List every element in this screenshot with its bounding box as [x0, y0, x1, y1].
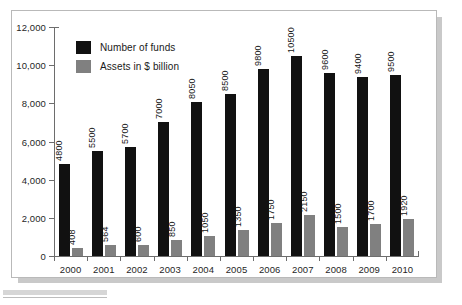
x-axis-label: 2007 — [292, 264, 314, 275]
bar-value-label: 9600 — [321, 49, 330, 70]
y-axis-label: 4,000 — [22, 174, 46, 185]
y-axis-label: 0 — [41, 251, 46, 262]
x-axis-tick — [54, 256, 55, 261]
bar-assets: 1500 — [337, 227, 348, 256]
x-axis-line — [54, 256, 419, 257]
scan-artifact-line — [3, 297, 107, 298]
bar-assets: 1050 — [204, 236, 215, 256]
x-axis-label: 2000 — [60, 264, 82, 275]
y-axis-tick — [49, 103, 54, 104]
bar-funds: 8500 — [225, 94, 236, 256]
x-axis-label: 2004 — [193, 264, 215, 275]
x-axis-tick — [353, 256, 354, 261]
bar-assets: 600 — [138, 245, 149, 256]
x-axis-tick — [286, 256, 287, 261]
y-axis-top-cap — [54, 27, 59, 28]
bar-value-label: 1920 — [400, 196, 409, 217]
x-axis-tick — [386, 256, 387, 261]
x-axis-label: 2002 — [126, 264, 148, 275]
bar-value-label: 8050 — [188, 79, 197, 100]
bar-value-label: 1050 — [201, 212, 210, 233]
bar-value-label: 9800 — [254, 45, 263, 66]
bar-assets: 1920 — [403, 219, 414, 256]
bar-value-label: 600 — [134, 226, 143, 242]
x-axis-label: 2005 — [226, 264, 248, 275]
bar-value-label: 1700 — [367, 200, 376, 221]
x-axis-tick — [319, 256, 320, 261]
y-axis-tick — [49, 65, 54, 66]
bar-funds: 9500 — [390, 75, 401, 256]
x-axis-label: 2008 — [325, 264, 347, 275]
x-axis-label: 2006 — [259, 264, 281, 275]
legend-label: Assets in $ billion — [100, 61, 179, 72]
bar-value-label: 7000 — [155, 99, 164, 120]
legend-swatch — [76, 60, 91, 73]
y-axis-label: 12,000 — [16, 22, 46, 33]
bar-assets: 850 — [171, 240, 182, 256]
bar-value-label: 4800 — [55, 141, 64, 162]
bar-assets: 1350 — [238, 230, 249, 256]
bar-value-label: 5700 — [121, 123, 130, 144]
bar-value-label: 564 — [101, 227, 110, 243]
bar-assets: 1750 — [271, 223, 282, 256]
bar-value-label: 5500 — [88, 127, 97, 148]
x-axis-label: 2001 — [93, 264, 115, 275]
scan-artifact-bar — [3, 290, 107, 295]
bar-funds: 9400 — [357, 77, 368, 256]
bar-assets: 1700 — [370, 224, 381, 256]
bar-value-label: 1750 — [267, 199, 276, 220]
bar-value-label: 10500 — [287, 27, 296, 53]
x-axis-tick — [187, 256, 188, 261]
legend-item: Number of funds — [76, 38, 179, 57]
y-axis-tick — [49, 218, 54, 219]
legend-label: Number of funds — [100, 42, 175, 53]
bar-value-label: 9400 — [354, 53, 363, 74]
bar-value-label: 408 — [68, 230, 77, 246]
legend-swatch — [76, 41, 91, 54]
bar-funds: 9800 — [258, 69, 269, 256]
bar-assets: 2150 — [304, 215, 315, 256]
x-axis-tick — [87, 256, 88, 261]
frame-shadow-bottom — [18, 278, 442, 283]
bar-assets: 564 — [105, 245, 116, 256]
bar-value-label: 8500 — [221, 70, 230, 91]
bar-value-label: 9500 — [387, 51, 396, 72]
y-axis-label: 6,000 — [22, 136, 46, 147]
bar-funds: 10500 — [291, 56, 302, 256]
x-axis-tick — [253, 256, 254, 261]
frame-shadow-right — [437, 17, 442, 283]
x-axis-tick — [220, 256, 221, 261]
y-axis-tick — [49, 180, 54, 181]
bar-value-label: 1350 — [234, 206, 243, 227]
x-axis-tick — [120, 256, 121, 261]
bar-value-label: 1500 — [334, 204, 343, 225]
x-axis-label: 2009 — [358, 264, 380, 275]
y-axis-tick — [49, 27, 54, 28]
chart-legend: Number of fundsAssets in $ billion — [76, 38, 179, 76]
legend-item: Assets in $ billion — [76, 57, 179, 76]
chart-page: 02,0004,0006,0008,00010,00012,000 480040… — [0, 0, 462, 305]
bar-funds: 9600 — [324, 73, 335, 256]
bar-value-label: 850 — [168, 221, 177, 237]
y-axis-label: 10,000 — [16, 60, 46, 71]
y-axis-label: 8,000 — [22, 98, 46, 109]
x-axis-label: 2010 — [392, 264, 414, 275]
x-axis-label: 2003 — [159, 264, 181, 275]
x-axis-tick — [154, 256, 155, 261]
bar-assets: 408 — [72, 248, 83, 256]
x-axis-end-cap — [418, 251, 419, 256]
bar-value-label: 2150 — [300, 191, 309, 212]
y-axis-label: 2,000 — [22, 212, 46, 223]
